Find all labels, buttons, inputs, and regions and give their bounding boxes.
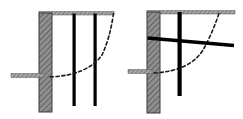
left-retaining-wall bbox=[39, 13, 52, 112]
excavation-diagram bbox=[0, 0, 243, 119]
figure-container: Excavation support cross-sections bbox=[0, 0, 243, 119]
left-pile-1 bbox=[73, 14, 76, 107]
left-excavation-level bbox=[11, 74, 44, 78]
left-pile-2 bbox=[94, 14, 97, 107]
figure-background bbox=[0, 0, 243, 119]
right-vertical-pile bbox=[178, 12, 182, 96]
right-retaining-wall bbox=[147, 12, 160, 113]
right-excavation-level bbox=[128, 70, 152, 74]
